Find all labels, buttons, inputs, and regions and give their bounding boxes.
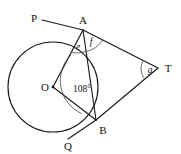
point-label-p: P (31, 12, 37, 24)
point-label-q: Q (64, 140, 72, 152)
geometry-figure: P A T O B Q 108° e f g (0, 0, 181, 154)
angle-arc-g (141, 60, 144, 78)
angle-label-f: f (90, 37, 94, 47)
line-segment-pa (42, 20, 83, 30)
angle-arc-f (86, 40, 102, 51)
line-segment-bt (96, 68, 158, 120)
point-label-a: A (79, 14, 87, 26)
angle-label-108: 108° (73, 84, 91, 94)
angle-label-g: g (148, 65, 153, 75)
line-segment-bq (68, 120, 96, 139)
point-label-b: B (99, 124, 106, 136)
point-label-o: O (41, 81, 49, 93)
point-label-t: T (165, 62, 172, 74)
angle-label-e: e (76, 42, 80, 52)
centre-point-dot (52, 86, 55, 89)
geometry-canvas: P A T O B Q 108° e f g (0, 0, 181, 154)
line-segment-at (83, 30, 158, 68)
